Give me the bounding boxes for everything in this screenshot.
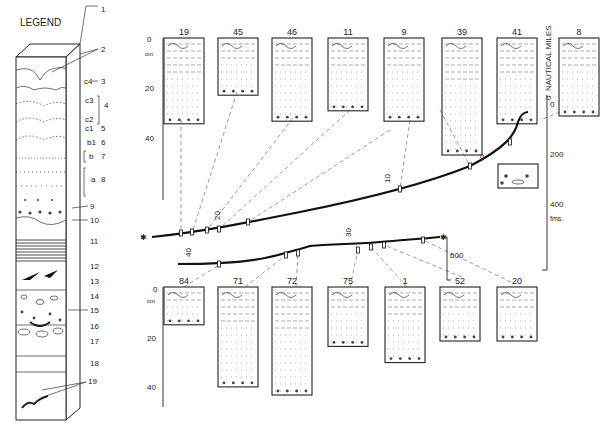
legend-label-14: 14 (90, 292, 99, 301)
core-grain (333, 341, 336, 344)
legend-sublabel-c3: c3 (85, 96, 94, 105)
core-grain (564, 111, 567, 114)
station-marker (285, 252, 288, 258)
core-box (385, 287, 425, 363)
legend-block-front (16, 57, 66, 420)
core-grain (445, 336, 448, 339)
core-grain (286, 390, 289, 393)
core-grain (295, 390, 298, 393)
core-11: 11 (328, 27, 368, 111)
legend-label-15: 15 (90, 306, 99, 315)
core-box (218, 287, 258, 387)
core-grain (178, 319, 181, 322)
core-label: 11 (343, 27, 352, 37)
core-grain (305, 116, 308, 119)
core-grain (475, 150, 478, 153)
legend-label-1: 1 (101, 5, 106, 14)
core-grain (169, 319, 172, 322)
core-grain (582, 111, 585, 114)
core-grain (530, 336, 533, 339)
core-grain (573, 111, 576, 114)
core-grain (418, 357, 421, 360)
core-label: 45 (233, 27, 243, 37)
station-marker (422, 237, 425, 243)
legend-label-10: 10 (90, 216, 99, 225)
station-marker (370, 244, 373, 250)
lower-axis-tick-0: 0 (153, 285, 158, 294)
core-grain (232, 382, 235, 385)
core-label: 39 (457, 27, 467, 37)
distance-label-30: 30 (344, 228, 353, 237)
legend-sublabel-c4: c4 (84, 77, 93, 86)
lower-axis-tick-40: 40 (147, 383, 156, 392)
core-grain (342, 341, 345, 344)
legend-block-side (66, 44, 80, 420)
lower-core-axis: 0 cm 20 40 (147, 285, 163, 407)
legend-number-labels: 1 2 3 4 5 6 7 8 9 10 11 12 13 14 15 16 1… (88, 5, 109, 386)
lower-axis-unit: cm (147, 298, 155, 304)
lower-cores: 8471727515220 (164, 276, 537, 395)
core-grain (351, 105, 354, 108)
station-marker (191, 229, 194, 235)
core-label: 20 (512, 276, 522, 286)
legend-title: LEGEND (20, 17, 61, 28)
core-grain (197, 118, 200, 121)
legend-label-12: 12 (90, 262, 99, 271)
station-marker (218, 261, 221, 267)
station-marker (383, 242, 386, 248)
core-0-label: 0 (480, 153, 484, 160)
depth-tick-600: 600 (450, 251, 464, 260)
core-grain (447, 150, 450, 153)
core-grain (251, 90, 254, 93)
core-grain (223, 90, 226, 93)
core-grain (197, 319, 200, 322)
core-box (384, 38, 424, 121)
legend-label-11: 11 (90, 237, 99, 246)
core-box (442, 38, 482, 155)
core-45: 45 (218, 27, 258, 95)
core-label: 84 (179, 276, 189, 286)
core-46: 46 (272, 27, 312, 121)
core-grain (232, 90, 235, 93)
legend-label-13: 13 (90, 277, 99, 286)
legend-sublabel-b1: b1 (87, 138, 96, 147)
core-52: 52 (440, 276, 480, 341)
core-grain (465, 150, 468, 153)
core-grain (251, 382, 254, 385)
legend-label-9: 9 (90, 202, 95, 211)
station-marker (206, 227, 209, 233)
core-box (272, 38, 312, 121)
depth-tick-400: 400 (550, 200, 564, 209)
core-grain (530, 118, 533, 121)
legend-label-16: 16 (90, 322, 99, 331)
core-grain (502, 118, 505, 121)
profile-break-marker-lower: ✱ (440, 233, 447, 242)
legend-label-4: 4 (104, 101, 109, 110)
station-marker (180, 230, 183, 236)
depth-tick-0: 0 (550, 100, 555, 109)
core-label: 71 (233, 276, 243, 286)
depth-unit: fms. (550, 215, 563, 222)
core-label: 46 (287, 27, 297, 37)
core-box (328, 287, 368, 346)
core-grain (463, 336, 466, 339)
upper-axis-tick-20: 20 (145, 84, 154, 93)
depth-tick-200: 200 (550, 150, 564, 159)
core-grain (398, 116, 401, 119)
core-box (218, 38, 258, 95)
station-marker (247, 219, 250, 225)
core-label: 75 (343, 276, 353, 286)
core-label: 72 (287, 276, 297, 286)
core-grain (351, 341, 354, 344)
core-grain (241, 90, 244, 93)
core-grain (178, 118, 181, 121)
legend-label-6: 6 (101, 138, 106, 147)
core-grain (241, 382, 244, 385)
station-marker (218, 226, 221, 232)
legend-label-7: 7 (101, 152, 106, 161)
core-label: 8 (576, 27, 581, 37)
legend-label-18: 18 (90, 359, 99, 368)
station-marker (469, 163, 472, 169)
core-grain (520, 118, 523, 121)
legend-sublabel-a: a (91, 175, 96, 184)
